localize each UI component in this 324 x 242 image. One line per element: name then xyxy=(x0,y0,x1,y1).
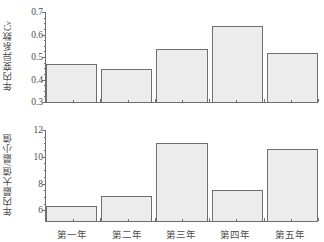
x-axis-category-labels: 第一年第二年第三年第四年第五年 xyxy=(45,227,317,241)
y-axis-tick-labels-maxmin: 681012 xyxy=(17,130,43,221)
y-axis-minor-tick xyxy=(44,96,47,97)
bar-series-maxmin xyxy=(46,130,318,221)
x-axis-tick xyxy=(100,99,101,102)
x-axis-tick xyxy=(100,218,101,221)
x-axis-tick xyxy=(209,218,210,221)
x-axis-minor-tick xyxy=(236,100,237,102)
figure-two-bar-charts: 年内变异系数Cv 0.30.40.50.60.7 年内最大值/最小值 68101… xyxy=(0,0,324,242)
plot-area-cv xyxy=(45,12,318,103)
x-axis-minor-tick xyxy=(182,100,183,102)
x-axis-minor-tick xyxy=(291,219,292,221)
y-axis-minor-tick xyxy=(44,204,47,205)
y-axis-major-tick xyxy=(42,57,46,58)
y-axis-minor-tick xyxy=(44,74,47,75)
y-axis-minor-tick xyxy=(44,197,47,198)
y-axis-major-tick xyxy=(42,130,46,131)
y-axis-minor-tick xyxy=(44,143,47,144)
bar xyxy=(267,149,318,221)
y-axis-minor-tick xyxy=(44,137,47,138)
bar-series-cv xyxy=(46,12,318,102)
x-axis-category-label: 第五年 xyxy=(263,227,317,241)
x-axis-tick xyxy=(209,99,210,102)
x-axis-tick xyxy=(264,99,265,102)
y-axis-minor-tick xyxy=(44,51,47,52)
y-axis-label-cv-main: 年内变异系数C xyxy=(3,25,14,91)
y-axis-minor-tick xyxy=(44,68,47,69)
bar xyxy=(267,53,318,103)
bar xyxy=(101,196,152,221)
x-axis-category-label: 第二年 xyxy=(99,227,153,241)
x-axis-tick xyxy=(155,99,156,102)
bar xyxy=(101,69,152,102)
x-axis-minor-tick xyxy=(73,219,74,221)
y-axis-minor-tick xyxy=(44,23,47,24)
plot-area-maxmin xyxy=(45,130,318,222)
x-axis-tick xyxy=(318,218,319,221)
y-axis-minor-tick xyxy=(44,91,47,92)
x-axis-tick xyxy=(264,218,265,221)
y-axis-tick-labels-cv: 0.30.40.50.60.7 xyxy=(17,12,43,102)
y-axis-label-cv: 年内变异系数Cv xyxy=(0,4,16,108)
y-axis-major-tick xyxy=(42,184,46,185)
x-axis-category-label: 第四年 xyxy=(208,227,262,241)
y-axis-minor-tick xyxy=(44,29,47,30)
x-axis-tick xyxy=(318,99,319,102)
y-axis-major-tick xyxy=(42,102,46,103)
x-axis-tick xyxy=(155,218,156,221)
y-axis-major-tick xyxy=(42,35,46,36)
x-axis-minor-tick xyxy=(128,100,129,102)
y-axis-minor-tick xyxy=(44,163,47,164)
x-axis-tick xyxy=(46,99,47,102)
x-axis-tick xyxy=(46,218,47,221)
bar xyxy=(46,64,97,102)
x-axis-category-label: 第一年 xyxy=(45,227,99,241)
bar xyxy=(156,49,207,102)
x-axis-minor-tick xyxy=(182,219,183,221)
y-axis-major-tick xyxy=(42,12,46,13)
y-axis-major-tick xyxy=(42,80,46,81)
x-axis-minor-tick xyxy=(291,100,292,102)
y-axis-minor-tick xyxy=(44,177,47,178)
bar xyxy=(212,190,263,221)
y-axis-label-cv-subscript: v xyxy=(3,21,14,25)
chart-panel-maxmin: 年内最大值/最小值 681012 第一年第二年第三年第四年第五年 xyxy=(0,121,324,242)
y-axis-major-tick xyxy=(42,157,46,158)
y-axis-major-tick xyxy=(42,210,46,211)
y-axis-minor-tick xyxy=(44,150,47,151)
x-axis-minor-tick xyxy=(236,219,237,221)
x-axis-minor-tick xyxy=(73,100,74,102)
y-axis-label-maxmin: 年内最大值/最小值 xyxy=(0,125,16,225)
bar xyxy=(46,206,97,221)
x-axis-category-label: 第三年 xyxy=(154,227,208,241)
y-axis-minor-tick xyxy=(44,85,47,86)
x-axis-minor-tick xyxy=(128,219,129,221)
y-axis-minor-tick xyxy=(44,63,47,64)
y-axis-minor-tick xyxy=(44,190,47,191)
bar xyxy=(212,26,263,103)
y-axis-minor-tick xyxy=(44,18,47,19)
y-axis-label-maxmin-main: 年内最大值/最小值 xyxy=(3,134,14,217)
chart-panel-cv: 年内变异系数Cv 0.30.40.50.60.7 xyxy=(0,0,324,121)
y-axis-minor-tick xyxy=(44,40,47,41)
y-axis-minor-tick xyxy=(44,170,47,171)
y-axis-minor-tick xyxy=(44,46,47,47)
bar xyxy=(156,143,207,221)
